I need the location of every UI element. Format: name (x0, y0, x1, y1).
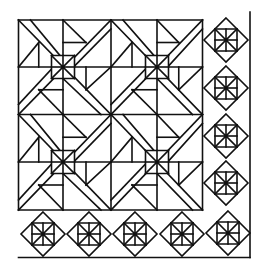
triangle-edge (132, 185, 157, 210)
star-center-dot (155, 65, 159, 69)
triangle-edge (19, 43, 39, 68)
band-parallel (75, 29, 112, 66)
diamond-star-square (215, 29, 237, 51)
main-block-grid (19, 20, 203, 210)
diamond-star-square (215, 172, 237, 194)
right-border-diamond (204, 161, 248, 205)
star-center-dot (41, 232, 45, 236)
bottom-border-diamond (160, 212, 204, 256)
tile-center-star (52, 56, 75, 79)
triangle-edge (39, 185, 63, 210)
pattern-tile (19, 20, 112, 115)
diamond-star-square (171, 223, 193, 245)
diamond-star-square (215, 125, 237, 147)
triangle-edge (19, 137, 39, 162)
star-center-dot (155, 160, 159, 164)
triangle-edge (86, 162, 111, 185)
star-center-dot (224, 38, 228, 42)
triangle-edge (179, 162, 203, 185)
right-border-diamond (204, 66, 248, 110)
bottom-border-diamond (67, 212, 111, 256)
quilt-pattern-drawing (0, 0, 265, 273)
star-center-dot (61, 160, 65, 164)
right-border-diamond (204, 18, 248, 62)
triangle-edge (111, 137, 132, 162)
right-border-diamond (204, 114, 248, 158)
triangle-edge (157, 115, 179, 138)
diamond-star-square (217, 222, 239, 244)
band-parallel (75, 124, 112, 162)
bottom-border-diamond (21, 212, 65, 256)
star-center-dot (224, 181, 228, 185)
diamond-star-square (215, 77, 237, 99)
pattern-tile (111, 115, 203, 211)
bottom-border-diamond (113, 212, 157, 256)
triangle-edge (63, 115, 86, 138)
triangle-edge (179, 67, 203, 90)
band-parallel (169, 29, 203, 66)
star-center-dot (61, 65, 65, 69)
star-center-dot (87, 232, 91, 236)
star-center-dot (226, 231, 230, 235)
pattern-tile (19, 115, 112, 211)
triangle-edge (157, 20, 179, 43)
star-center-dot (133, 232, 137, 236)
triangle-edge (111, 43, 132, 68)
star-center-dot (224, 86, 228, 90)
diamond-star-square (78, 223, 100, 245)
band-parallel (157, 174, 193, 211)
band-parallel (169, 124, 203, 162)
triangle-edge (63, 20, 86, 43)
triangle-edge (132, 90, 157, 115)
diamond-star-square (124, 223, 146, 245)
diamond-border (19, 12, 251, 258)
triangle-edge (39, 90, 63, 115)
pattern-tile (111, 20, 203, 115)
star-center-dot (180, 232, 184, 236)
triangle-edge (86, 67, 111, 90)
geometric-quilt-svg (0, 0, 265, 273)
star-center-dot (224, 134, 228, 138)
tile-center-star (52, 151, 75, 174)
tile-center-star (146, 151, 169, 174)
diamond-star-square (32, 223, 54, 245)
tile-center-star (146, 56, 169, 79)
band-parallel (157, 79, 193, 115)
bottom-border-diamond (206, 211, 250, 255)
